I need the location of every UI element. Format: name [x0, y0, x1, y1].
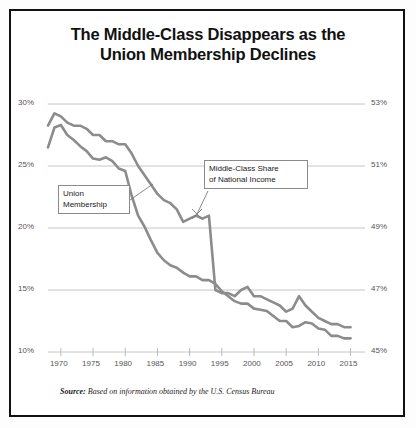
y2-axis-label: 45%	[371, 346, 387, 355]
x-axis-label: 1985	[146, 359, 164, 368]
x-axis-label: 1995	[211, 359, 229, 368]
data-series-group	[48, 113, 351, 338]
annotation-mcs-line2: of National Income	[209, 175, 303, 186]
leader-line-union	[130, 184, 153, 200]
x-axis-label: 2010	[307, 359, 325, 368]
source-text: Based on information obtained by the U.S…	[86, 387, 275, 396]
series-middle-class-share	[48, 113, 351, 327]
x-axis-label: 2000	[243, 359, 261, 368]
source-note: Source: Based on information obtained by…	[60, 387, 275, 396]
figure-root: The Middle-Class Disappears as the Union…	[0, 0, 416, 428]
chart-title: The Middle-Class Disappears as the Union…	[20, 24, 396, 64]
y-axis-label: 30%	[18, 98, 34, 107]
annotation-union-line2: Membership	[63, 200, 125, 211]
annotation-mcs-line1: Middle-Class Share	[209, 164, 303, 175]
y2-axis-label: 47%	[371, 284, 387, 293]
x-axis-label: 1980	[114, 359, 132, 368]
y-axis-label: 25%	[18, 160, 34, 169]
y-axis-label: 15%	[18, 284, 34, 293]
chart-title-line2: Union Membership Declines	[20, 44, 396, 64]
y-axis-label: 20%	[18, 222, 34, 231]
annotation-union-membership: Union Membership	[58, 185, 130, 214]
x-axis-label: 1990	[179, 359, 197, 368]
annotation-union-line1: Union	[63, 189, 125, 200]
y2-axis-label: 51%	[371, 160, 387, 169]
chart-title-line1: The Middle-Class Disappears as the	[71, 25, 346, 43]
x-axis-label: 1975	[82, 359, 100, 368]
y2-axis-label: 53%	[371, 98, 387, 107]
plot-area	[12, 96, 404, 364]
source-label: Source:	[60, 387, 86, 396]
line-chart	[12, 96, 404, 364]
annotation-middle-class-share: Middle-Class Share of National Income	[204, 160, 308, 189]
right-axis-ticks	[357, 104, 365, 352]
y-axis-label: 10%	[18, 346, 34, 355]
y2-axis-label: 49%	[371, 222, 387, 231]
x-axis-label: 2015	[340, 359, 358, 368]
gridlines	[48, 104, 357, 352]
x-axis-label: 2005	[275, 359, 293, 368]
x-axis-label: 1970	[50, 359, 68, 368]
leader-line-middle-class	[197, 191, 208, 214]
